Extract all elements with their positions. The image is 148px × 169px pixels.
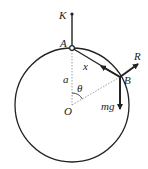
label-R: R xyxy=(133,50,141,62)
label-B: B xyxy=(124,74,131,86)
ring-A xyxy=(70,46,75,51)
label-theta: θ xyxy=(77,82,83,94)
label-a: a xyxy=(63,73,69,85)
circle-bead-diagram: K A x R B a θ O mg xyxy=(0,0,148,169)
point-K-dot xyxy=(70,12,73,15)
label-x: x xyxy=(82,60,88,72)
label-mg: mg xyxy=(101,100,115,112)
label-O: O xyxy=(64,105,72,117)
tension-arrow xyxy=(101,66,120,77)
label-A: A xyxy=(59,37,67,49)
label-K: K xyxy=(58,9,67,21)
